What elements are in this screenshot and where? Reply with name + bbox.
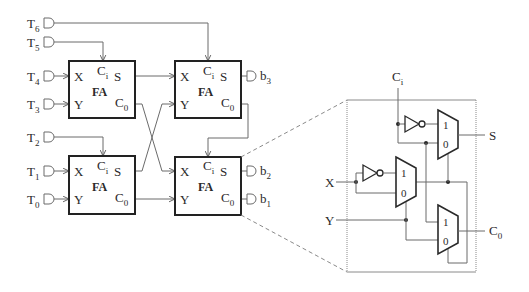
port-y: Y bbox=[74, 97, 84, 112]
wire-t2-to-fa3-ci bbox=[54, 137, 103, 156]
input-pin-icon bbox=[44, 71, 54, 81]
svg-text:b3: b3 bbox=[260, 68, 272, 86]
block-title: FA bbox=[198, 85, 213, 99]
wire-t5-to-fa1-ci bbox=[54, 42, 103, 61]
full-adder-2: X Ci S FA Y C0 bbox=[175, 61, 241, 118]
svg-text:b1: b1 bbox=[260, 191, 271, 209]
mux-icon bbox=[396, 157, 416, 207]
output-b3: b3 bbox=[247, 68, 272, 86]
detail-x-label: X bbox=[325, 175, 335, 190]
input-pin-icon bbox=[44, 132, 54, 142]
port-x: X bbox=[74, 69, 84, 84]
port-x: X bbox=[74, 164, 84, 179]
full-adder-4: X Ci S FA Y C0 bbox=[175, 157, 241, 215]
input-t4: T4 bbox=[27, 69, 54, 87]
svg-text:0: 0 bbox=[443, 235, 449, 247]
svg-text:T5: T5 bbox=[27, 35, 40, 53]
callout-line-top bbox=[241, 100, 347, 157]
mux-sum: 1 0 bbox=[438, 110, 458, 159]
inverter-ci-icon bbox=[405, 116, 419, 132]
mux-carry: 1 0 bbox=[438, 205, 458, 254]
mux-icon bbox=[438, 110, 458, 159]
input-pin-icon bbox=[44, 99, 54, 109]
svg-text:b2: b2 bbox=[260, 163, 271, 181]
input-t0: T0 bbox=[27, 192, 54, 210]
svg-text:T3: T3 bbox=[27, 97, 40, 115]
input-pin-icon bbox=[44, 166, 54, 176]
output-pin-icon bbox=[247, 166, 256, 176]
port-y: Y bbox=[180, 97, 190, 112]
svg-text:1: 1 bbox=[401, 167, 407, 179]
output-pin-icon bbox=[247, 71, 256, 81]
port-s: S bbox=[114, 69, 121, 84]
input-t5: T5 bbox=[27, 35, 54, 53]
svg-text:T1: T1 bbox=[27, 164, 39, 182]
input-t2: T2 bbox=[27, 130, 54, 148]
svg-text:0: 0 bbox=[401, 187, 407, 199]
output-b2: b2 bbox=[247, 163, 271, 181]
svg-text:0: 0 bbox=[443, 138, 449, 150]
block-title: FA bbox=[92, 85, 107, 99]
inverter-x-icon bbox=[363, 165, 377, 181]
detail-co-label: C0 bbox=[489, 223, 503, 241]
input-pin-icon bbox=[44, 37, 54, 47]
input-pin-icon bbox=[44, 194, 54, 204]
svg-text:T2: T2 bbox=[27, 130, 39, 148]
input-t1: T1 bbox=[27, 164, 54, 182]
input-t3: T3 bbox=[27, 97, 54, 115]
detail-y-label: Y bbox=[325, 213, 335, 228]
svg-text:1: 1 bbox=[443, 119, 449, 131]
svg-text:T0: T0 bbox=[27, 192, 40, 210]
output-pin-icon bbox=[247, 194, 256, 204]
svg-text:T4: T4 bbox=[27, 69, 40, 87]
port-y: Y bbox=[180, 192, 190, 207]
svg-text:1: 1 bbox=[443, 216, 449, 228]
detail-ci-label: Ci bbox=[392, 69, 404, 87]
detail-s-label: S bbox=[489, 128, 496, 143]
port-s: S bbox=[114, 164, 121, 179]
port-x: X bbox=[180, 69, 190, 84]
port-y: Y bbox=[74, 192, 84, 207]
full-adder-3: X Ci S FA Y C0 bbox=[69, 156, 135, 214]
port-x: X bbox=[180, 164, 190, 179]
wire-ci bbox=[398, 88, 438, 143]
input-t6: T6 bbox=[27, 16, 54, 34]
port-s: S bbox=[220, 69, 227, 84]
full-adder-1: X Ci S FA Y C0 bbox=[69, 61, 135, 118]
mux-xor: 1 0 bbox=[396, 157, 416, 207]
input-label: T6 bbox=[27, 16, 40, 34]
input-pin-icon bbox=[44, 18, 54, 28]
full-adder-array-diagram: T6 T5 T4 T3 T2 T1 T0 bbox=[0, 0, 529, 292]
wire-fa1-co-to-fa4-x bbox=[135, 104, 175, 171]
block-title: FA bbox=[92, 180, 107, 194]
wire-fa3-s-to-fa2-y bbox=[135, 104, 175, 171]
output-b1: b1 bbox=[247, 191, 271, 209]
block-title: FA bbox=[198, 180, 213, 194]
port-s: S bbox=[220, 164, 227, 179]
